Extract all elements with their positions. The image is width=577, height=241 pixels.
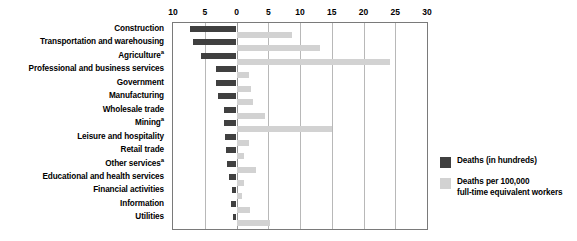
bar-deaths-hundreds [201,53,237,59]
bar-row [173,107,427,120]
bar-death-rate-per-100k [237,45,321,51]
bar-death-rate-per-100k [237,99,254,105]
bar-row [173,134,427,147]
legend-item[interactable]: Deaths (in hundreds) [440,156,576,168]
category-label-column: ConstructionTransportation and warehousi… [0,22,168,230]
bar-row [173,147,427,160]
bar-death-rate-per-100k [237,153,245,159]
legend-item[interactable]: Deaths per 100,000 full-time equivalent … [440,177,576,198]
bar-death-rate-per-100k [237,167,256,173]
bar-row [173,93,427,106]
category-label: Utilities [0,212,164,222]
chart-legend: Deaths (in hundreds)Deaths per 100,000 f… [440,156,576,207]
bar-death-rate-per-100k [237,32,293,38]
bar-deaths-hundreds [216,80,237,86]
category-label: Agriculturea [0,51,164,61]
category-label: Financial activities [0,185,164,195]
axis-tick-label: 20 [359,6,368,18]
bar-death-rate-per-100k [237,113,266,119]
bar-row [173,201,427,214]
bar-row [173,161,427,174]
axis-tick-label: 0 [234,6,239,18]
bar-deaths-hundreds [193,39,236,45]
bar-row [173,66,427,79]
legend-label: Deaths (in hundreds) [457,156,576,167]
legend-label: Deaths per 100,000 full-time equivalent … [457,177,576,198]
category-label: Mininga [0,118,164,128]
plot-area [172,22,428,230]
legend-swatch-icon [440,178,451,189]
bar-row [173,214,427,227]
gridline [427,23,428,229]
bar-death-rate-per-100k [237,140,249,146]
bar-row [173,39,427,52]
category-label: Professional and business services [0,64,164,74]
bar-row [173,187,427,200]
bar-row [173,80,427,93]
bar-deaths-hundreds [216,66,237,72]
bar-deaths-hundreds [227,161,237,167]
axis-tick-label: 25 [391,6,400,18]
bar-row [173,174,427,187]
bar-deaths-hundreds [224,120,237,126]
bar-row [173,120,427,133]
bar-deaths-hundreds [190,26,236,32]
fatal-occupational-injuries-chart: ConstructionTransportation and warehousi… [0,0,577,241]
bar-death-rate-per-100k [237,193,242,199]
bar-deaths-hundreds [229,174,237,180]
category-label: Information [0,199,164,209]
category-label: Other servicesa [0,159,164,169]
category-label: Leisure and hospitality [0,132,164,142]
axis-tick-label: 5 [202,6,207,18]
bar-death-rate-per-100k [237,207,250,213]
bar-death-rate-per-100k [237,180,245,186]
axis-tick-label: 30 [422,6,431,18]
bar-row [173,26,427,39]
legend-swatch-icon [440,157,451,168]
bar-death-rate-per-100k [237,59,390,65]
axis-tick-label: 5 [266,6,271,18]
bar-deaths-hundreds [224,107,237,113]
bar-row [173,53,427,66]
axis-tick-label: 15 [327,6,336,18]
x-axis-tick-labels: 105051015202530 [172,6,428,20]
footnote-marker: a [161,157,164,163]
bar-death-rate-per-100k [237,220,271,226]
category-label: Educational and health services [0,172,164,182]
bar-death-rate-per-100k [237,86,252,92]
footnote-marker: a [161,49,164,55]
category-label: Wholesale trade [0,105,164,115]
bar-deaths-hundreds [218,93,236,99]
category-label: Construction [0,24,164,34]
axis-tick-label: 10 [295,6,304,18]
axis-tick-label: 10 [168,6,177,18]
category-label: Transportation and warehousing [0,37,164,47]
category-label: Manufacturing [0,91,164,101]
category-label: Government [0,78,164,88]
bar-deaths-hundreds [225,134,236,140]
bar-death-rate-per-100k [237,72,250,78]
bar-death-rate-per-100k [237,126,332,132]
footnote-marker: a [161,116,164,122]
category-label: Retail trade [0,145,164,155]
bar-deaths-hundreds [226,147,237,153]
